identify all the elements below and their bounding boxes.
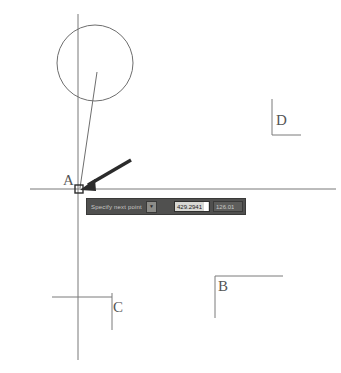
drawing-geometry [0,0,341,373]
vertex-label-b: B [218,279,228,294]
command-prompt-label: Specify next point [91,204,142,210]
leader-line [80,72,97,188]
circle-annotation [57,25,133,101]
drawing-canvas[interactable]: A B C D Specify next point ▼ 429.2941 12… [0,0,341,373]
vertex-label-d: D [276,113,287,128]
chevron-down-icon[interactable]: ▼ [146,201,157,213]
y-coordinate-input[interactable]: 126.01 [213,201,243,212]
vertex-label-c: C [113,300,123,315]
command-prompt-field[interactable]: Specify next point ▼ [89,200,171,213]
dynamic-input-toolbar[interactable]: Specify next point ▼ 429.2941 126.01 [86,198,246,215]
x-coordinate-input[interactable]: 429.2941 [174,201,210,212]
y-coordinate-value: 126.01 [214,204,234,210]
text-caret [204,202,208,211]
x-coordinate-value: 429.2941 [175,204,202,210]
vertex-label-a: A [63,173,74,188]
